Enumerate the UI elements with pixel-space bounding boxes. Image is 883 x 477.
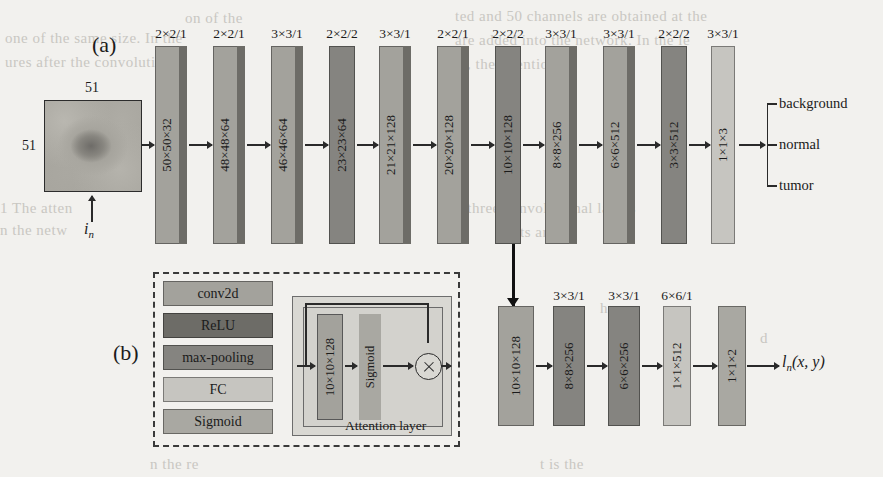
layer-bar-relu-edge — [403, 46, 411, 244]
legend-item-max-pooling: max-pooling — [163, 345, 273, 370]
ghost-text: t is the — [540, 456, 584, 473]
class-label-tumor: tumor — [779, 177, 814, 194]
layer-bar-relu-edge — [295, 46, 303, 244]
arrow-conv3-to-pool1 — [305, 144, 328, 146]
layer-kernel-label-conv6: 3×3/1 — [531, 26, 591, 42]
input-width-label: 51 — [85, 80, 99, 96]
layer-bar-conv2: 48×48×64 — [213, 46, 245, 244]
layer-bar-conv3: 46×46×64 — [271, 46, 303, 244]
output-formula: ln(x, y) — [782, 353, 825, 373]
layer-kernel-label-conv4: 3×3/1 — [365, 26, 425, 42]
layer-shape-label: 46×46×64 — [275, 118, 291, 172]
layer-bar-relu-edge — [461, 46, 469, 244]
layer-bar-conv6: 8×8×256 — [545, 46, 577, 244]
attention-arrow-conv-to-sigmoid — [345, 365, 357, 367]
arrow-conv9-to-fc2 — [642, 365, 662, 367]
layer-shape-label: 20×20×128 — [441, 115, 457, 175]
input-symbol-label: in — [84, 220, 94, 240]
layer-shape-label: 1×1×3 — [715, 128, 731, 162]
layer-kernel-label-fc2: 6×6/1 — [647, 288, 707, 304]
arrow-feat-to-conv8 — [536, 365, 552, 367]
panel-a-letter: (a) — [92, 32, 116, 58]
input-height-label: 51 — [22, 138, 36, 154]
layer-kernel-label-conv5: 2×2/1 — [423, 26, 483, 42]
ghost-text: d — [760, 330, 768, 347]
arrow-conv5-to-pool2 — [471, 144, 494, 146]
layer-bar-feat: 10×10×128 — [498, 306, 534, 426]
layer-bar-conv1: 50×50×32 — [155, 46, 187, 244]
layer-bar-conv8: 8×8×256 — [553, 306, 585, 426]
layer-shape-label: 10×10×128 — [508, 336, 524, 396]
layer-bar-fc1: 1×1×3 — [711, 46, 735, 244]
class-label-background: background — [779, 95, 847, 112]
attention-sigmoid-label: Sigmoid — [363, 346, 378, 388]
layer-kernel-label-conv1: 2×2/1 — [141, 26, 201, 42]
layer-bar-fc3: 1×1×2 — [718, 306, 746, 426]
ghost-text: n the netw — [0, 222, 67, 239]
arrow-conv8-to-conv9 — [587, 365, 607, 367]
ghost-text: n the re — [150, 456, 199, 473]
layer-shape-label: 8×8×256 — [549, 121, 565, 168]
layer-shape-label: 21×21×128 — [383, 115, 399, 175]
arrow-fc2-to-fc3 — [693, 365, 717, 367]
arrow-pool2-to-conv6 — [523, 144, 544, 146]
arrow-conv6-to-conv7 — [579, 144, 602, 146]
attention-conv-label: 10×10×128 — [323, 338, 338, 396]
layer-bar-conv5: 20×20×128 — [437, 46, 469, 244]
arrow-pool3-to-fc1 — [689, 144, 710, 146]
legend-item-conv2d: conv2d — [163, 281, 273, 306]
legend-item-fc: FC — [163, 377, 273, 402]
arrow-branch-split — [512, 244, 515, 306]
layer-shape-label: 8×8×256 — [561, 342, 577, 389]
layer-kernel-label-conv3: 3×3/1 — [257, 26, 317, 42]
layer-bar-relu-edge — [179, 46, 187, 244]
class-bracket — [767, 103, 768, 187]
layer-shape-label: 48×48×64 — [217, 118, 233, 172]
layer-shape-label: 6×6×256 — [616, 342, 632, 389]
layer-bar-relu-edge — [237, 46, 245, 244]
layer-bar-fc2: 1×1×512 — [663, 306, 691, 426]
layer-shape-label: 50×50×32 — [159, 118, 175, 172]
layer-bar-relu-edge — [569, 46, 577, 244]
layer-bar-relu-edge — [627, 46, 635, 244]
layer-shape-label: 6×6×512 — [607, 121, 623, 168]
class-label-normal: normal — [779, 136, 820, 153]
attention-arrow-sigmoid-to-mult — [383, 365, 413, 367]
arrow-pool1-to-conv4 — [357, 144, 378, 146]
arrow-conv1-to-conv2 — [189, 144, 212, 146]
attention-arrow-in — [297, 365, 315, 367]
attention-layer-box: 10×10×128 Sigmoid Attention layer — [292, 296, 452, 436]
ghost-text: 1 The atten — [0, 200, 73, 217]
layer-bar-pool3: 3×3×512 — [661, 46, 687, 244]
layer-kernel-label-pool2: 2×2/2 — [478, 26, 538, 42]
arrow-to-classes — [739, 144, 765, 146]
layer-shape-label: 1×1×512 — [669, 342, 685, 389]
arrow-conv2-to-conv3 — [247, 144, 270, 146]
layer-bar-pool2: 10×10×128 — [495, 46, 521, 244]
layer-shape-label: 23×23×64 — [334, 118, 350, 172]
layer-kernel-label-pool1: 2×2/2 — [312, 26, 372, 42]
ghost-text: on of the — [185, 10, 243, 27]
layer-kernel-label-conv2: 2×2/1 — [199, 26, 259, 42]
arrow-conv7-to-pool3 — [637, 144, 660, 146]
layer-shape-label: 10×10×128 — [500, 115, 516, 175]
input-arrow — [91, 196, 93, 222]
arrow-to-output — [747, 365, 779, 367]
layer-bar-conv7: 6×6×512 — [603, 46, 635, 244]
attention-skip-right — [427, 303, 429, 343]
layer-shape-label: 3×3×512 — [666, 121, 682, 168]
attention-skip-left — [305, 303, 307, 365]
attention-arrow-out — [441, 365, 451, 367]
layer-bar-conv4: 21×21×128 — [379, 46, 411, 244]
multiply-icon — [415, 353, 442, 380]
ghost-text: ures after the convolution — [5, 54, 172, 71]
legend-item-sigmoid: Sigmoid — [163, 409, 273, 434]
attention-caption: Attention layer — [345, 418, 426, 434]
layer-kernel-label-conv9: 3×3/1 — [594, 288, 654, 304]
layer-kernel-label-conv8: 3×3/1 — [539, 288, 599, 304]
attention-skip-top — [305, 303, 429, 305]
layer-kernel-label-fc1: 3×3/1 — [693, 26, 753, 42]
layer-kernel-label-conv7: 3×3/1 — [589, 26, 649, 42]
attention-sigmoid-bar: Sigmoid — [359, 314, 381, 420]
layer-shape-label: 1×1×2 — [724, 349, 740, 383]
